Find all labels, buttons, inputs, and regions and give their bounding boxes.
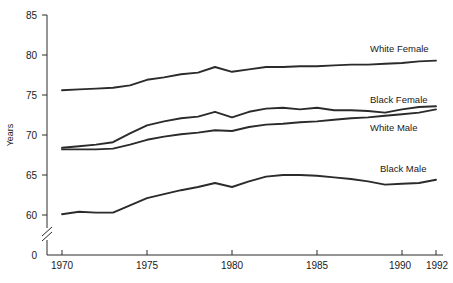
series-line-white-female [62,61,436,91]
series-group [62,61,436,215]
x-tick-label-1970: 1970 [51,260,74,271]
x-tick-label-1980: 1980 [221,260,244,271]
y-tick-label-70: 70 [26,130,38,141]
y-tick-label-60: 60 [26,210,38,221]
y-tick-label-75: 75 [26,90,38,101]
series-label-black-female: Black Female [370,94,428,105]
x-tick-label-1990: 1990 [389,260,412,271]
series-label-black-male: Black Male [380,163,426,174]
chart-canvas: 85 80 75 70 65 60 0 Years 1970 1975 1980… [0,0,453,283]
axis-break-slash-lower [42,227,52,236]
axis-break-slash-upper [42,232,52,241]
series-line-black-male [62,175,436,214]
series-label-white-female: White Female [370,43,429,54]
x-tick-label-1992: 1992 [426,260,449,271]
series-label-white-male: White Male [370,122,418,133]
x-tick-label-1975: 1975 [136,260,159,271]
y-tick-label-80: 80 [26,50,38,61]
life-expectancy-line-chart: 85 80 75 70 65 60 0 Years 1970 1975 1980… [0,0,453,283]
y-tick-label-0: 0 [31,250,37,261]
y-tick-label-65: 65 [26,170,38,181]
y-tick-label-85: 85 [26,10,38,21]
x-tick-label-1985: 1985 [306,260,329,271]
y-axis-title: Years [5,123,15,146]
